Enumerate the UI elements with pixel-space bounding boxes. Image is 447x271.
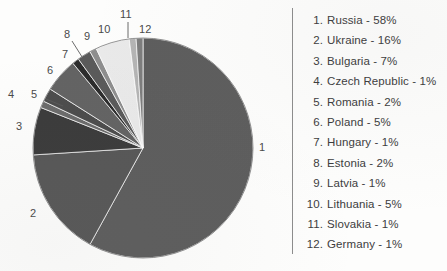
pie-label-10: 10: [98, 23, 111, 35]
pie-label-8: 8: [64, 28, 70, 40]
pie-label-5: 5: [31, 88, 37, 100]
pie-chart-area: 123456789101112: [0, 0, 292, 271]
legend-item-index: 9.: [306, 177, 323, 189]
pie-slice-group: [33, 38, 253, 258]
legend-item-index: 1.: [306, 14, 323, 26]
legend-item-7: 7.Hungary - 1%: [306, 136, 446, 156]
pie-chart-svg: [0, 0, 292, 271]
pie-label-11: 11: [120, 8, 132, 20]
pie-label-1: 1: [259, 141, 265, 153]
legend-item-label: Romania - 2%: [327, 96, 401, 108]
legend-item-label: Germany - 1%: [327, 238, 402, 250]
legend-item-index: 10.: [306, 198, 323, 210]
pie-label-9: 9: [84, 30, 90, 42]
pie-label-6: 6: [47, 64, 53, 76]
pie-label-7: 7: [62, 48, 68, 60]
legend-item-index: 4.: [306, 75, 323, 87]
legend-item-label: Czech Republic - 1%: [327, 75, 436, 87]
legend-item-8: 8.Estonia - 2%: [306, 157, 446, 177]
legend-item-6: 6.Poland - 5%: [306, 116, 446, 136]
legend-item-4: 4.Czech Republic - 1%: [306, 75, 446, 95]
legend-item-index: 5.: [306, 96, 323, 108]
legend-item-5: 5.Romania - 2%: [306, 96, 446, 116]
legend-item-3: 3.Bulgaria - 7%: [306, 55, 446, 75]
legend-item-label: Latvia - 1%: [327, 177, 386, 189]
legend-item-index: 11.: [306, 218, 323, 230]
pie-label-2: 2: [30, 207, 36, 219]
legend-item-9: 9.Latvia - 1%: [306, 177, 446, 197]
legend-list: 1.Russia - 58%2.Ukraine - 16%3.Bulgaria …: [306, 14, 446, 259]
legend-item-2: 2.Ukraine - 16%: [306, 34, 446, 54]
legend-item-label: Lithuania - 5%: [327, 198, 402, 210]
legend-item-label: Ukraine - 16%: [327, 34, 401, 46]
legend: 1.Russia - 58%2.Ukraine - 16%3.Bulgaria …: [292, 0, 447, 271]
legend-item-index: 8.: [306, 157, 323, 169]
legend-item-index: 7.: [306, 136, 323, 148]
legend-item-11: 11.Slovakia - 1%: [306, 218, 446, 238]
legend-item-label: Hungary - 1%: [327, 136, 399, 148]
legend-item-index: 3.: [306, 55, 323, 67]
legend-item-index: 6.: [306, 116, 323, 128]
legend-item-label: Russia - 58%: [327, 14, 397, 26]
legend-divider-rule: [292, 8, 293, 254]
legend-item-label: Bulgaria - 7%: [327, 55, 397, 67]
legend-item-label: Poland - 5%: [327, 116, 391, 128]
legend-item-10: 10.Lithuania - 5%: [306, 198, 446, 218]
pie-leader-line-8: [72, 41, 84, 60]
legend-item-1: 1.Russia - 58%: [306, 14, 446, 34]
legend-item-label: Slovakia - 1%: [327, 218, 399, 230]
pie-label-4: 4: [8, 88, 14, 100]
pie-label-12: 12: [139, 23, 152, 35]
legend-item-index: 2.: [306, 34, 323, 46]
legend-item-label: Estonia - 2%: [327, 157, 393, 169]
legend-item-index: 12.: [306, 238, 323, 250]
pie-label-3: 3: [16, 120, 22, 132]
legend-item-12: 12.Germany - 1%: [306, 238, 446, 258]
